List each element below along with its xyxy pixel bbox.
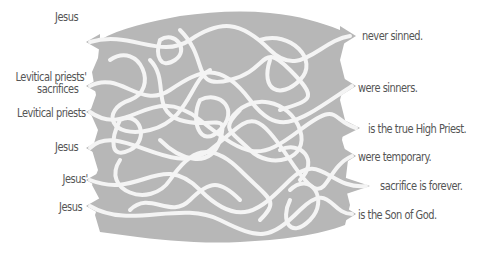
right-label-4: were temporary.	[358, 151, 431, 163]
left-label-6: Jesus	[59, 201, 82, 213]
left-label-5: Jesus'	[63, 173, 88, 185]
right-label-6: is the Son of God.	[358, 209, 437, 221]
right-label-1: never sinned.	[362, 30, 423, 42]
left-label-4: Jesus	[55, 141, 78, 153]
left-label-3: Levitical priests	[17, 107, 86, 119]
maze-worksheet: Jesus Levitical priests' sacrifices Levi…	[0, 0, 496, 255]
right-label-3: is the true High Priest.	[368, 123, 466, 135]
left-label-2-line2: sacrifices	[37, 83, 78, 95]
right-label-5: sacrifice is forever.	[380, 180, 462, 192]
right-label-2: were sinners.	[358, 82, 417, 94]
left-label-1: Jesus	[55, 11, 78, 23]
